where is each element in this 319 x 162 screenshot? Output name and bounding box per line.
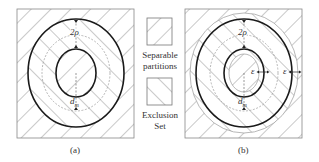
dist-label-a: dm xyxy=(70,96,79,108)
legend-label-exclusion: Exclusion Set xyxy=(141,110,179,132)
caption-a: (a) xyxy=(70,145,80,155)
dist-subscript: m xyxy=(243,102,247,108)
gap-label-a: 2ρ xyxy=(70,27,79,37)
caption-b: (b) xyxy=(238,145,249,155)
legend-swatch-separable xyxy=(147,18,172,45)
diagram-canvas xyxy=(0,0,319,162)
dist-subscript: m xyxy=(75,102,79,108)
legend-label-line: partitions xyxy=(141,61,179,72)
gap-label-b: 2ρ xyxy=(238,27,247,37)
dist-label-b: dm xyxy=(238,96,247,108)
legend-label-line: Exclusion xyxy=(141,110,179,121)
epsilon-inner-label: ε xyxy=(251,66,255,76)
legend-label-line: Set xyxy=(141,121,179,132)
legend-label-separable: Separable partitions xyxy=(141,50,179,72)
epsilon-outer-label: ε xyxy=(283,66,287,76)
legend-label-line: Separable xyxy=(141,50,179,61)
legend-swatch-exclusion xyxy=(147,78,172,105)
